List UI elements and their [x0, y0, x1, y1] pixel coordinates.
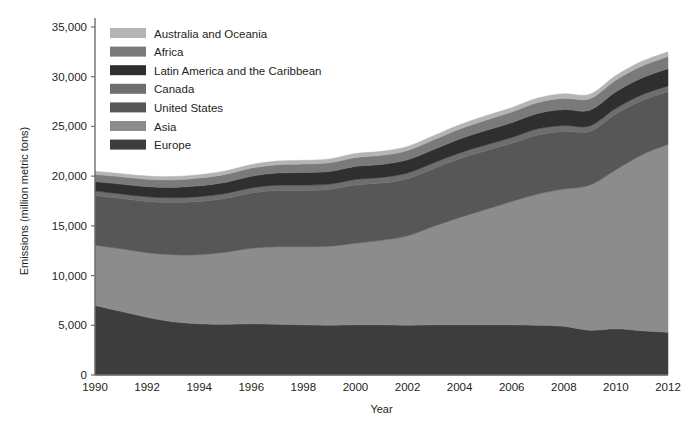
x-tick-label: 2006 — [499, 381, 525, 393]
x-tick-label: 1998 — [291, 381, 317, 393]
y-axis-title: Emissions (million metric tons) — [18, 127, 30, 276]
legend-item: Africa — [110, 46, 184, 58]
y-tick-label: 30,000 — [52, 71, 87, 83]
legend-item: Latin America and the Caribbean — [110, 65, 322, 77]
x-tick-label: 2004 — [447, 381, 473, 393]
legend-label: Europe — [154, 139, 191, 151]
y-tick-label: 15,000 — [52, 220, 87, 232]
legend-swatch — [110, 121, 146, 131]
legend-label: United States — [154, 102, 223, 114]
x-axis-title: Year — [370, 403, 393, 415]
x-tick-label: 2008 — [551, 381, 577, 393]
chart-canvas: 05,00010,00015,00020,00025,00030,00035,0… — [0, 0, 683, 431]
legend-swatch — [110, 28, 146, 38]
legend-swatch — [110, 102, 146, 112]
legend-swatch — [110, 47, 146, 57]
legend-item: Asia — [110, 121, 177, 133]
emissions-stacked-area-chart: 05,00010,00015,00020,00025,00030,00035,0… — [0, 0, 683, 431]
y-axis-tick-labels: 05,00010,00015,00020,00025,00030,00035,0… — [52, 21, 95, 381]
legend-item: Europe — [110, 139, 191, 151]
x-tick-label: 2000 — [343, 381, 369, 393]
x-tick-label: 2010 — [603, 381, 629, 393]
legend-swatch — [110, 140, 146, 150]
x-tick-label: 1990 — [82, 381, 108, 393]
legend-label: Canada — [154, 83, 195, 95]
y-tick-label: 20,000 — [52, 170, 87, 182]
y-tick-label: 5,000 — [58, 319, 87, 331]
legend-label: Latin America and the Caribbean — [154, 65, 322, 77]
legend-item: Canada — [110, 83, 195, 95]
legend-swatch — [110, 65, 146, 75]
x-tick-label: 1996 — [238, 381, 264, 393]
y-tick-label: 25,000 — [52, 120, 87, 132]
legend-swatch — [110, 84, 146, 94]
x-tick-label: 1994 — [186, 381, 212, 393]
legend-item: United States — [110, 102, 223, 114]
y-tick-label: 35,000 — [52, 21, 87, 33]
x-tick-label: 1992 — [134, 381, 160, 393]
legend-item: Australia and Oceania — [110, 28, 268, 40]
plot-areas — [95, 52, 668, 375]
x-axis-tick-labels: 1990199219941996199820002002200420062008… — [82, 381, 681, 393]
y-tick-label: 10,000 — [52, 270, 87, 282]
x-tick-label: 2002 — [395, 381, 421, 393]
legend-label: Africa — [154, 46, 184, 58]
x-tick-label: 2012 — [655, 381, 681, 393]
chart-legend: Australia and OceaniaAfricaLatin America… — [110, 28, 322, 152]
legend-label: Asia — [154, 121, 177, 133]
legend-label: Australia and Oceania — [154, 28, 268, 40]
y-tick-label: 0 — [81, 369, 87, 381]
